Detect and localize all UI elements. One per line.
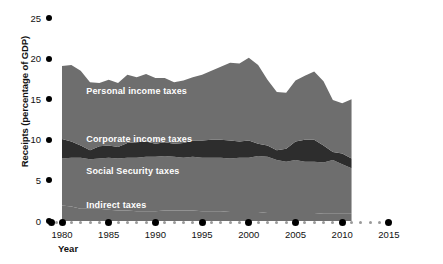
area-label-personal-income-taxes: Personal income taxes	[86, 86, 187, 96]
chart-figure: Receipts (percentage of GDP) 0510152025 …	[0, 0, 443, 264]
area-label-corporate-income-taxes: Corporate income taxes	[86, 134, 192, 144]
area-label-social-security-taxes: Social Security taxes	[86, 166, 179, 176]
plot-area	[0, 0, 443, 264]
area-label-indirect-taxes: Indirect taxes	[86, 200, 146, 210]
x-axis-title: Year	[58, 243, 78, 254]
